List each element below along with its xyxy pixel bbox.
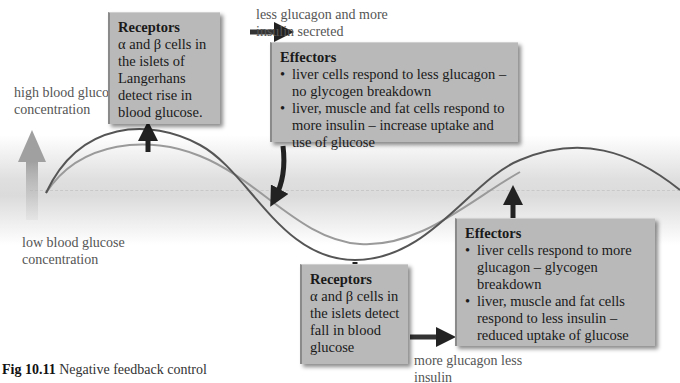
bullet-item: liver cells respond to less glucagon – n… bbox=[280, 66, 510, 100]
bullet-item: liver cells respond to more glucagon – g… bbox=[465, 242, 647, 293]
receptors-rise-box: Receptors α and β cells in the islets of… bbox=[108, 12, 220, 124]
top-arrow-label: less glucagon and more insulin secreted bbox=[256, 6, 406, 40]
box-body: α and β cells in the islets of Langerhan… bbox=[118, 36, 212, 121]
figure-caption: Fig 10.11 Negative feedback control bbox=[2, 362, 207, 378]
effectors-rise-box: Effectors liver cells respond to less gl… bbox=[270, 42, 518, 142]
box-title: Effectors bbox=[465, 225, 647, 242]
box-title: Receptors bbox=[118, 19, 212, 36]
receptors-fall-box: Receptors α and β cells in the islets de… bbox=[300, 264, 408, 364]
low-glucose-label: low blood glucose concentration bbox=[22, 234, 172, 268]
effectors-fall-box: Effectors liver cells respond to more gl… bbox=[455, 218, 655, 346]
bullet-item: liver, muscle and fat cells respond to l… bbox=[465, 293, 647, 344]
bullet-item: liver, muscle and fat cells respond to m… bbox=[280, 100, 510, 151]
box-title: Receptors bbox=[310, 271, 400, 288]
box-title: Effectors bbox=[280, 49, 510, 66]
concentration-scale-arrow bbox=[18, 130, 46, 220]
caption-number: Fig 10.11 bbox=[2, 362, 56, 377]
caption-text: Negative feedback control bbox=[59, 362, 207, 377]
box-body: α and β cells in the islets detect fall … bbox=[310, 288, 400, 356]
bottom-arrow-label: more glucagon less insulin bbox=[414, 352, 524, 383]
